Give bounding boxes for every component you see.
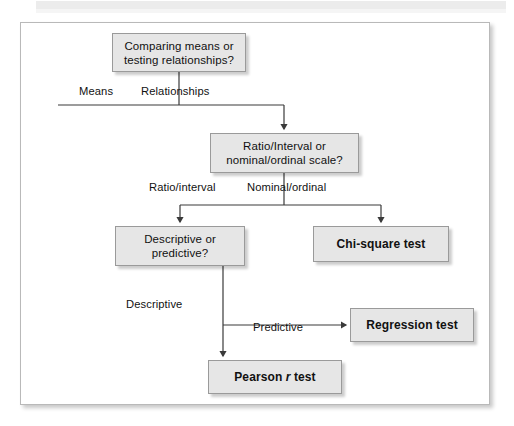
node-chi-square-test: Chi-square test bbox=[313, 226, 449, 262]
edge-label-means: Means bbox=[79, 85, 113, 98]
node-pearson-r-test: Pearson r test bbox=[208, 360, 342, 394]
node-ratio-interval-or-nominal-ordinal-scale: Ratio/Interval ornominal/ordinal scale? bbox=[210, 133, 359, 173]
node-pearson-label: Pearson r test bbox=[209, 370, 341, 384]
edge-label-descriptive: Descriptive bbox=[126, 298, 182, 311]
edge-label-ratio-interval: Ratio/interval bbox=[149, 181, 216, 194]
edge-label-nominal-ordinal: Nominal/ordinal bbox=[247, 181, 326, 194]
node-scale-label: Ratio/Interval ornominal/ordinal scale? bbox=[211, 139, 358, 167]
node-chi-square-label: Chi-square test bbox=[314, 237, 448, 251]
flowchart-connectors bbox=[21, 23, 489, 404]
figure-frame: Comparing means ortesting relationships?… bbox=[20, 22, 490, 405]
page-top-band-secondary bbox=[36, 9, 506, 13]
edge-label-relationships: Relationships bbox=[141, 85, 209, 98]
node-comparing-means-or-testing-relationships: Comparing means ortesting relationships? bbox=[112, 33, 246, 72]
node-regression-label: Regression test bbox=[351, 318, 473, 332]
node-regression-test: Regression test bbox=[350, 308, 474, 342]
edge-label-predictive: Predictive bbox=[253, 321, 303, 334]
node-descriptive-or-predictive: Descriptive orpredictive? bbox=[115, 226, 245, 266]
node-descriptive-predictive-label: Descriptive orpredictive? bbox=[116, 232, 244, 260]
node-root-label: Comparing means ortesting relationships? bbox=[113, 39, 245, 67]
flowchart-canvas: Comparing means ortesting relationships?… bbox=[21, 23, 489, 404]
page-top-band bbox=[36, 1, 506, 9]
